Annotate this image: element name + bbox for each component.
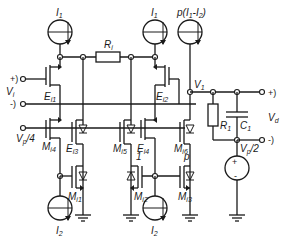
resistor-ri — [96, 52, 120, 62]
label-vd-minus: -) — [268, 135, 274, 145]
vd-plus-terminal[interactable] — [260, 90, 265, 95]
label-p-current: p(I1-I2) — [176, 7, 206, 19]
transistor-ei4 — [141, 95, 157, 176]
label-c1: C1 — [240, 120, 251, 132]
label-vi-minus: -) — [10, 99, 16, 109]
label-i1-mid: I1 — [151, 7, 158, 19]
ground-icon — [75, 215, 91, 221]
vi-plus-terminal[interactable] — [21, 77, 26, 82]
circuit-diagram: I1 I1 p(I1-I2) Ri Ei1 +) Vi — [0, 0, 286, 246]
label-vd-plus: +) — [268, 88, 276, 98]
label-ei2: Ei2 — [156, 91, 168, 103]
transistor-ei1 — [46, 57, 62, 95]
label-ei1: Ei1 — [44, 91, 56, 103]
current-source-i1-mid — [143, 20, 167, 57]
svg-text:-: - — [234, 171, 237, 181]
current-source-i2-mid — [143, 196, 167, 221]
ground-icon — [229, 215, 245, 221]
label-vi: Vi — [6, 86, 15, 98]
vd-minus-terminal[interactable] — [260, 138, 265, 143]
label-vp4: Vp/4 — [16, 133, 35, 146]
ground-icon — [182, 215, 198, 221]
label-vp2: Vp/2 — [240, 143, 259, 156]
label-mi5: Mi5 — [113, 143, 127, 155]
label-ratio-1: 1 — [136, 151, 142, 162]
label-ri: Ri — [104, 39, 113, 51]
label-i2-left: I2 — [56, 225, 63, 237]
label-i1-left: I1 — [56, 7, 63, 19]
resistor-r1 — [208, 104, 218, 126]
label-vi-plus: +) — [10, 74, 18, 84]
transistor-mi5 — [120, 120, 135, 215]
vp4-terminal[interactable] — [21, 126, 26, 131]
label-vd: Vd — [268, 112, 280, 124]
transistor-mi2 — [127, 166, 142, 191]
voltage-source-vp2: + - — [225, 156, 249, 181]
label-r1: R1 — [220, 120, 231, 132]
vi-minus-terminal[interactable] — [21, 102, 26, 107]
transistor-mi1 — [72, 166, 87, 191]
ground-icon — [123, 215, 139, 221]
current-source-i1-left — [48, 20, 72, 57]
transistor-mi4 — [46, 95, 62, 176]
transistor-mi3 — [180, 166, 194, 191]
label-mi4: Mi4 — [42, 141, 56, 153]
label-i2-mid: I2 — [151, 225, 158, 237]
current-source-i2-left — [48, 196, 72, 221]
label-ratio-p: p — [183, 151, 190, 162]
label-v1: V1 — [194, 79, 205, 91]
svg-text:+: + — [232, 157, 237, 167]
label-ei3: Ei3 — [66, 143, 78, 155]
